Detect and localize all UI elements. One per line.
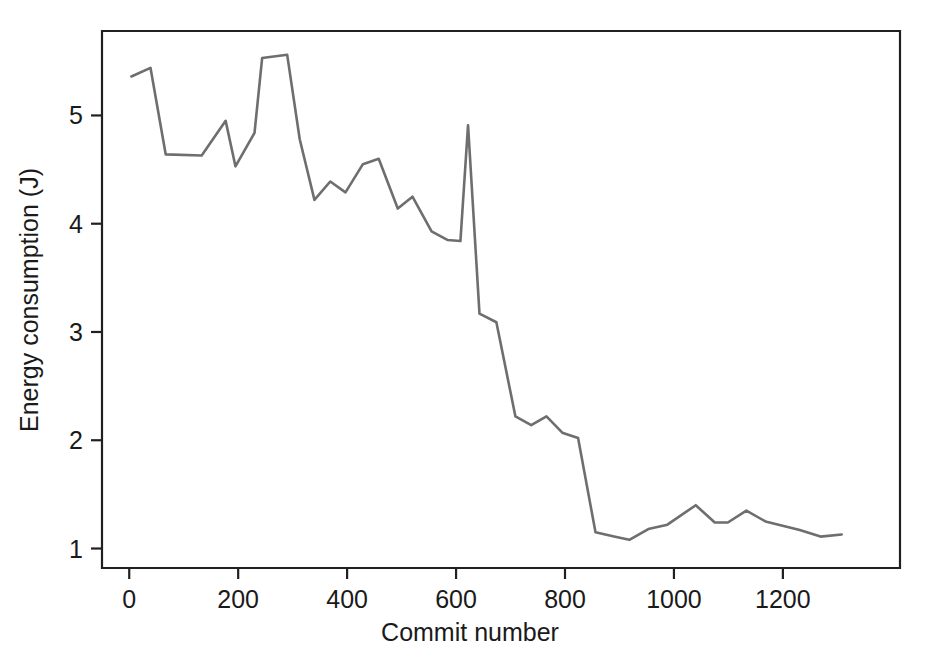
- chart-figure: 020040060080010001200 12345 Commit numbe…: [0, 0, 941, 666]
- x-tick-label: 200: [217, 585, 259, 613]
- y-tick-label: 2: [69, 426, 83, 454]
- x-axis-tick-labels: 020040060080010001200: [122, 585, 810, 613]
- y-tick-label: 5: [69, 101, 83, 129]
- x-tick-label: 1200: [755, 585, 811, 613]
- x-tick-label: 1000: [646, 585, 702, 613]
- x-tick-label: 0: [122, 585, 136, 613]
- data-series-group: [131, 55, 841, 540]
- y-tick-label: 1: [69, 535, 83, 563]
- series-line-energy-consumption: [131, 55, 841, 540]
- x-tick-label: 600: [435, 585, 477, 613]
- plot-frame: [102, 31, 900, 568]
- x-axis-title: Commit number: [381, 618, 559, 646]
- y-axis-tick-labels: 12345: [69, 101, 83, 562]
- y-axis-title: Energy consumption (J): [15, 168, 43, 432]
- y-tick-label: 4: [69, 210, 83, 238]
- x-tick-label: 400: [326, 585, 368, 613]
- energy-consumption-line-chart: 020040060080010001200 12345 Commit numbe…: [0, 0, 941, 666]
- x-tick-label: 800: [544, 585, 586, 613]
- y-tick-label: 3: [69, 318, 83, 346]
- x-axis-ticks: [129, 568, 783, 579]
- y-axis-ticks: [91, 115, 102, 548]
